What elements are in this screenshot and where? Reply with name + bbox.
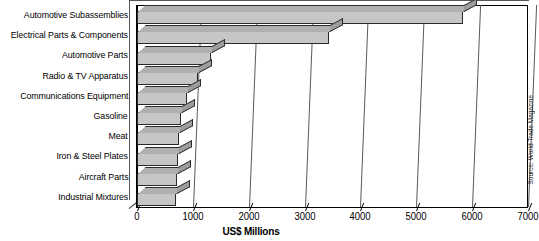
bar-top-face [138,46,219,53]
category-label: Radio & TV Apparatus [43,71,128,81]
category-label: Iron & Steel Plates [57,151,128,161]
bar [137,153,178,166]
x-axis-tick-label: 1000 [182,211,203,222]
x-axis-tick-label: 7000 [517,211,538,222]
category-label: Automotive Parts [62,50,128,60]
x-axis-title: US$ Millions [0,226,538,237]
category-label: Automotive Subassemblies [24,10,128,20]
x-axis-tick-label: 5000 [406,211,427,222]
category-label: Industrial Mixtures [58,192,128,202]
x-axis-tick-label: 0 [134,211,139,222]
x-axis-tick-label: 3000 [294,211,315,222]
bar-top-face [138,86,195,93]
category-label: Aircraft Parts [78,172,128,182]
x-axis-tick-label: 2000 [238,211,259,222]
category-label: Gasoline [94,111,128,121]
bar [137,193,176,206]
source-note: Source: World Trade Magazine [527,95,534,184]
category-axis-labels: Automotive SubassembliesElectrical Parts… [0,5,131,207]
category-label: Meat [109,131,128,141]
bar [137,132,179,145]
bar-row [137,5,479,25]
bar [137,92,187,105]
bar-row [137,25,345,45]
bar [137,11,463,24]
bar [137,52,211,65]
bar-top-face [138,25,338,32]
bar [137,173,177,186]
x-axis-tick-label: 6000 [462,211,483,222]
x-axis-tick-label: 4000 [350,211,371,222]
bar-row [137,187,192,207]
bar-side-face [464,0,477,12]
x-axis-title-text: US$ Millions [222,226,279,237]
bar-row [137,66,214,86]
bar [137,72,198,85]
bar [137,112,181,125]
bar-top-face [138,66,207,73]
category-label: Electrical Parts & Components [11,30,128,40]
bar-row [137,45,227,65]
bar-top-face [138,5,471,12]
plot-back-left-edge [129,0,130,200]
plot-back-top-edge [129,0,529,1]
category-label: Communications Equipment [20,91,128,101]
bar [137,31,329,44]
